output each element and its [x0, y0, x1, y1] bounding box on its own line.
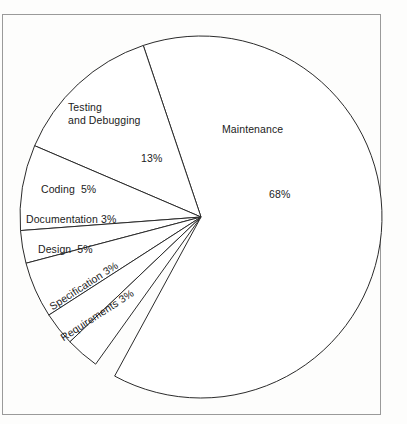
slice-label-design: Design 5%: [38, 243, 93, 256]
pie-chart-svg: [0, 0, 407, 424]
slice-label-coding: Coding 5%: [41, 183, 96, 196]
slice-label-maintenance: Maintenance: [222, 123, 283, 136]
slice-label-documentation: Documentation 3%: [26, 213, 116, 226]
slice-label-testing-line-1: Testing: [68, 101, 141, 114]
slice-percent-maintenance: 68%: [269, 188, 290, 201]
figure-root: Testingand Debugging 13% Maintenance 68%…: [0, 0, 407, 424]
slice-label-testing-and-debugging: Testingand Debugging: [68, 101, 141, 126]
slice-percent-testing-and-debugging: 13%: [141, 152, 162, 165]
slice-label-testing-line-2: and Debugging: [68, 114, 141, 127]
